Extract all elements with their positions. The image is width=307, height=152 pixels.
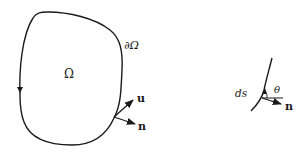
orientation-arrow-icon <box>17 87 23 93</box>
vector-u-label: u <box>137 92 145 105</box>
vector-n-label: n <box>138 120 146 133</box>
inset-normal-arrow <box>262 98 281 104</box>
vector-u-arrow <box>114 100 133 117</box>
arc-length-label: ds <box>235 87 248 99</box>
region-label: Ω <box>64 67 74 81</box>
inset-normal-label: n <box>285 100 293 113</box>
angle-label: θ <box>274 84 280 95</box>
angle-arc <box>265 92 267 98</box>
diagram-canvas: Ω ∂Ω u n ds θ n <box>0 0 307 152</box>
boundary-label: ∂Ω <box>124 39 139 52</box>
vector-n-arrow <box>114 117 135 124</box>
